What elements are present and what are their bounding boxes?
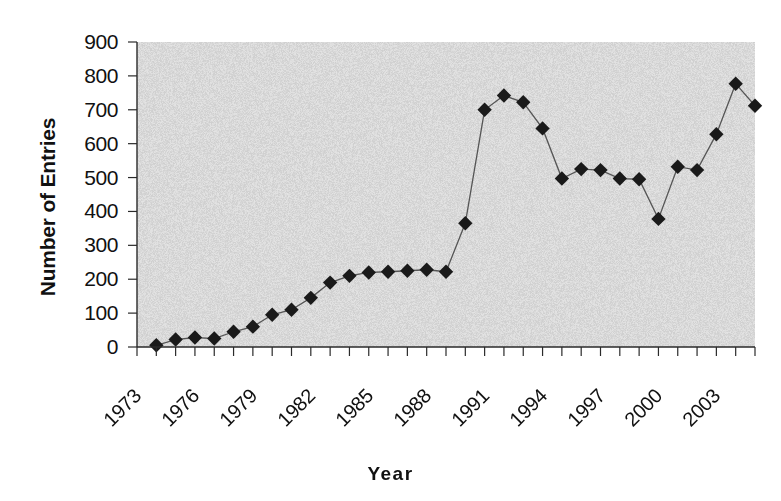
data-point-marker — [574, 162, 588, 176]
data-point-marker — [613, 171, 627, 185]
x-axis-tick-label: 1976 — [157, 384, 204, 431]
data-point-marker — [168, 332, 182, 346]
data-point-marker — [226, 325, 240, 339]
x-axis-tick-label: 1982 — [273, 384, 320, 431]
data-point-marker — [284, 303, 298, 317]
data-series-layer — [137, 42, 755, 347]
data-point-marker — [709, 127, 723, 141]
y-axis-tick-label: 800 — [24, 65, 118, 86]
data-point-marker — [149, 338, 163, 352]
x-axis-tick-label: 1991 — [447, 384, 494, 431]
y-axis-tick-label: 700 — [24, 99, 118, 120]
x-axis-tick-label: 2003 — [678, 384, 725, 431]
data-point-marker — [458, 216, 472, 230]
data-point-marker — [671, 160, 685, 174]
y-axis-tick-labels: 0100200300400500600700800900 — [24, 30, 118, 360]
data-point-marker — [304, 291, 318, 305]
x-axis-title: Year — [0, 463, 781, 485]
chart-figure: Number of Entries 0100200300400500600700… — [0, 0, 781, 501]
data-point-marker — [246, 319, 260, 333]
y-axis-tick-label: 600 — [24, 133, 118, 154]
data-point-marker — [419, 263, 433, 277]
data-point-marker — [362, 265, 376, 279]
y-axis-tick-label: 400 — [24, 200, 118, 221]
data-point-marker — [651, 212, 665, 226]
data-point-marker — [497, 88, 511, 102]
data-point-marker — [342, 269, 356, 283]
data-point-marker — [265, 308, 279, 322]
data-point-marker — [188, 330, 202, 344]
data-point-marker — [381, 265, 395, 279]
data-point-marker — [207, 331, 221, 345]
plot-area — [137, 42, 755, 347]
x-axis-tick-label: 1988 — [389, 384, 436, 431]
y-axis-tick-label: 500 — [24, 167, 118, 188]
series-line — [156, 84, 755, 346]
x-axis-tick-label: 1994 — [505, 384, 552, 431]
y-axis-tick-label: 100 — [24, 302, 118, 323]
y-axis-tick-label: 300 — [24, 234, 118, 255]
x-axis-tick-label: 2000 — [620, 384, 667, 431]
x-axis-tick-label: 1997 — [563, 384, 610, 431]
data-point-marker — [593, 163, 607, 177]
data-point-marker — [516, 95, 530, 109]
x-axis-tick-label: 1973 — [99, 384, 146, 431]
data-point-marker — [439, 265, 453, 279]
data-point-marker — [632, 172, 646, 186]
data-point-marker — [400, 264, 414, 278]
data-point-marker — [323, 275, 337, 289]
data-point-marker — [555, 171, 569, 185]
x-axis-tick-label: 1985 — [331, 384, 378, 431]
data-point-marker — [535, 121, 549, 135]
y-axis-tick-label: 900 — [24, 31, 118, 52]
x-axis-tick-label: 1979 — [215, 384, 262, 431]
data-point-marker — [477, 103, 491, 117]
y-axis-tick-label: 200 — [24, 268, 118, 289]
data-point-marker — [690, 163, 704, 177]
y-axis-tick-label: 0 — [24, 336, 118, 357]
